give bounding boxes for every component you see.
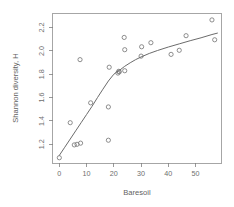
data-point xyxy=(213,38,217,42)
y-tick-label: 1.2 xyxy=(37,139,46,149)
x-tick-label: 10 xyxy=(83,169,91,178)
data-point xyxy=(169,52,173,56)
data-point xyxy=(140,45,144,49)
scatter-plot-figure: 01020304050 1.21.41.61.82.02.2 Baresoil … xyxy=(0,0,234,207)
data-point xyxy=(123,48,127,52)
x-tick-label: 50 xyxy=(192,169,200,178)
y-axis-label: Shannon diversity, H xyxy=(11,53,20,123)
data-point xyxy=(122,35,126,39)
chart-canvas: 01020304050 1.21.41.61.82.02.2 Baresoil … xyxy=(0,0,234,207)
x-tick-label: 30 xyxy=(137,169,145,178)
data-point xyxy=(78,58,82,62)
y-axis-ticks: 1.21.41.61.82.02.2 xyxy=(37,23,53,150)
data-point xyxy=(57,156,61,160)
y-tick-label: 1.6 xyxy=(37,93,46,103)
x-tick-label: 20 xyxy=(110,169,118,178)
x-tick-label: 40 xyxy=(164,169,172,178)
fitted-trend-line xyxy=(59,33,217,155)
plot-frame xyxy=(53,14,222,164)
y-tick-label: 2.0 xyxy=(37,46,46,56)
data-point xyxy=(106,105,110,109)
data-point xyxy=(68,121,72,125)
y-tick-label: 1.4 xyxy=(37,116,46,126)
data-point xyxy=(123,69,127,73)
data-point xyxy=(107,65,111,69)
y-tick-label: 1.8 xyxy=(37,69,46,79)
data-point xyxy=(210,18,214,22)
x-tick-label: 0 xyxy=(57,169,61,178)
data-point xyxy=(149,41,153,45)
y-tick-label: 2.2 xyxy=(37,23,46,33)
data-point xyxy=(184,34,188,38)
data-point xyxy=(177,48,181,52)
x-axis-label: Baresoil xyxy=(123,188,151,197)
data-points xyxy=(57,18,217,160)
data-point xyxy=(89,101,93,105)
data-point xyxy=(106,138,110,142)
x-axis-ticks: 01020304050 xyxy=(57,163,199,178)
